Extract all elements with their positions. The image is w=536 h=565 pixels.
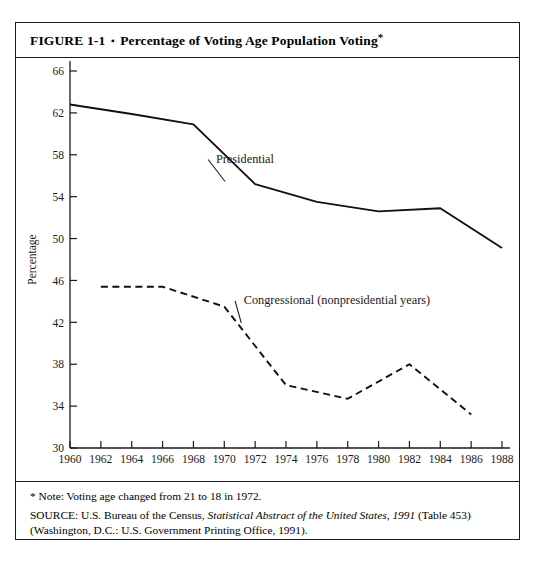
y-tick-label: 50 — [53, 233, 65, 245]
y-axis: 66625854504642383430Percentage — [26, 61, 77, 454]
y-tick-label: 54 — [53, 191, 65, 203]
x-tick-label: 1968 — [182, 453, 205, 465]
voting-turnout-line-chart: 66625854504642383430Percentage 196019621… — [16, 58, 518, 483]
x-tick-label: 1984 — [429, 453, 452, 465]
x-tick-label: 1960 — [59, 453, 82, 465]
figure-title-bar: FIGURE 1-1 ▪ Percentage of Voting Age Po… — [16, 23, 519, 58]
source-suffix: (Table 453) — [415, 509, 471, 521]
x-tick-label: 1966 — [151, 453, 174, 465]
source-title-italic: Statistical Abstract of the United State… — [208, 509, 416, 521]
y-tick-label: 42 — [53, 317, 65, 329]
figure-notes: * Note: Voting age changed from 21 to 18… — [16, 481, 519, 539]
y-tick-label: 46 — [53, 275, 65, 287]
x-tick-label: 1988 — [491, 453, 514, 465]
x-tick-label: 1976 — [305, 453, 328, 465]
series-line-presidential — [70, 105, 502, 248]
chart-plot-area: 66625854504642383430Percentage 196019621… — [16, 58, 519, 483]
x-tick-label: 1962 — [89, 453, 112, 465]
y-tick-label: 58 — [53, 149, 65, 161]
y-tick-label: 66 — [53, 65, 65, 77]
chart-series-group — [70, 105, 502, 415]
figure-number: FIGURE 1-1 — [30, 33, 105, 48]
source-line-1: SOURCE: U.S. Bureau of the Census, Stati… — [30, 508, 505, 523]
x-tick-label: 1978 — [336, 453, 359, 465]
x-tick-label: 1972 — [244, 453, 267, 465]
x-tick-label: 1974 — [275, 453, 298, 465]
bullet-icon: ▪ — [109, 35, 117, 46]
footnote-marker: * — [378, 31, 384, 43]
series-annotation-label: Congressional (nonpresidential years) — [244, 293, 430, 307]
figure-title-text: Percentage of Voting Age Population Voti… — [120, 33, 378, 48]
x-tick-label: 1980 — [367, 453, 390, 465]
source-prefix: SOURCE: U.S. Bureau of the Census, — [30, 509, 208, 521]
x-tick-label: 1964 — [120, 453, 143, 465]
x-axis: 1960196219641966196819701972197419761978… — [59, 441, 514, 465]
x-tick-label: 1986 — [460, 453, 483, 465]
source-line-2: (Washington, D.C.: U.S. Government Print… — [30, 523, 505, 538]
figure-container: FIGURE 1-1 ▪ Percentage of Voting Age Po… — [15, 22, 520, 540]
y-tick-label: 34 — [53, 400, 65, 412]
page-title: FIGURE 1-1 ▪ Percentage of Voting Age Po… — [30, 31, 384, 49]
y-tick-label: 38 — [53, 358, 65, 370]
series-annotation-label: Presidential — [216, 152, 275, 166]
chart-annotations: PresidentialCongressional (nonpresidenti… — [208, 152, 430, 323]
y-tick-label: 62 — [53, 107, 65, 119]
x-tick-label: 1982 — [398, 453, 421, 465]
footnote-line: * Note: Voting age changed from 21 to 18… — [30, 489, 505, 504]
x-tick-label: 1970 — [213, 453, 236, 465]
y-axis-title: Percentage — [26, 234, 39, 284]
